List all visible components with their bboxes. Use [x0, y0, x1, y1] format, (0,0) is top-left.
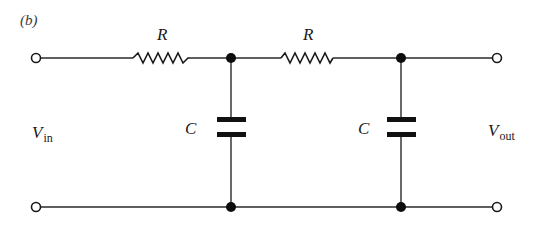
input-voltage-label: Vin: [32, 124, 53, 141]
output-voltage-label: Vout: [488, 122, 515, 139]
input-terminal-bottom: [32, 203, 41, 212]
capacitor-2-plate-bottom: [387, 132, 416, 137]
output-voltage-symbol: V: [488, 121, 498, 140]
input-voltage-symbol: V: [32, 123, 42, 142]
capacitor-1-plate-top: [217, 117, 246, 122]
junction-node-top-2: [396, 53, 406, 63]
resistor-2-label: R: [303, 26, 313, 43]
capacitor-2-label: C: [358, 120, 369, 137]
resistor-1-label: R: [157, 26, 167, 43]
circuit-schematic: [0, 0, 538, 238]
input-voltage-subscript: in: [43, 131, 52, 145]
capacitor-2-plate-top: [387, 117, 416, 122]
resistor-1-symbol: [133, 53, 190, 63]
junction-node-top-1: [226, 53, 236, 63]
capacitor-1-label: C: [185, 120, 196, 137]
output-voltage-subscript: out: [499, 129, 514, 143]
junction-node-bottom-2: [396, 202, 406, 212]
output-terminal-bottom: [493, 203, 502, 212]
panel-label: (b): [20, 12, 38, 29]
capacitor-1-plate-bottom: [217, 132, 246, 137]
resistor-2-symbol: [281, 53, 333, 63]
junction-node-bottom-1: [226, 202, 236, 212]
output-terminal-top: [493, 54, 502, 63]
input-terminal-top: [32, 54, 41, 63]
